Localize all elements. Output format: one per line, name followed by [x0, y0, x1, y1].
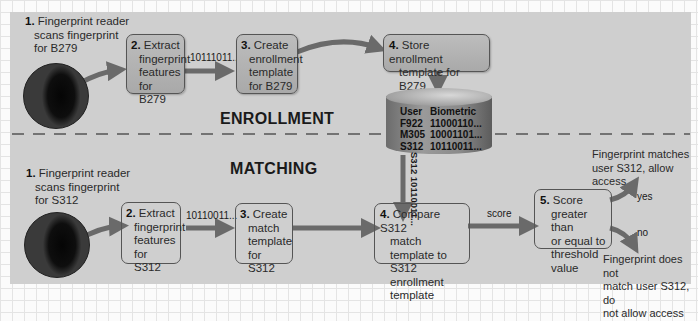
arrow-no — [610, 228, 634, 246]
section-title-enrollment: ENROLLMENT — [220, 110, 334, 128]
match-step5-threshold-box: 5. Score greater than or equal to thresh… — [534, 189, 612, 249]
database-header-row: UserBiometric — [400, 106, 482, 118]
yes-label: yes — [637, 191, 653, 202]
match-step3-create-box: 3. Create match template for S312 — [235, 203, 293, 264]
fingerprint-icon-enroll — [23, 63, 89, 129]
database-cylinder-top — [386, 88, 492, 106]
database-row: S31210110011... — [400, 141, 482, 153]
enroll-step3-create-box: 3. Create enrollment template for B279 — [236, 34, 298, 94]
enroll-step2-extract-box: 2. Extract fingerprint features for B279 — [126, 34, 185, 94]
enroll-step1-text: 1. Fingerprint reader scans fingerprint … — [25, 15, 129, 56]
database-table: UserBiometric F92211000110... M305100011… — [400, 106, 482, 152]
match-feature-data: 10110011... — [186, 210, 237, 221]
biometric-database: UserBiometric F92211000110... M305100011… — [386, 86, 492, 160]
yes-outcome-text: Fingerprint matches user S312, allow acc… — [592, 148, 698, 189]
enroll-feature-data: 10111011... — [190, 52, 241, 63]
database-row: M30510001101... — [400, 129, 482, 141]
database-row: F92211000110... — [400, 118, 482, 130]
no-outcome-text: Fingerprint does not match user S312, do… — [603, 253, 698, 321]
fingerprint-icon-match — [24, 212, 90, 278]
match-step4-compare-box: 4. Compare S312 match template to S312 e… — [374, 203, 470, 264]
match-step2-extract-box: 2. Extract fingerprint features for S312 — [121, 202, 181, 264]
section-title-matching: MATCHING — [230, 160, 317, 178]
score-label: score — [487, 208, 511, 219]
enroll-step4-store-box: 4. Store enrollment template for B279 — [383, 34, 490, 72]
no-label: no — [637, 227, 648, 238]
match-step1-text: 1. Fingerprint reader scans fingerprint … — [26, 167, 130, 208]
arrow-create-to-store — [297, 42, 378, 52]
